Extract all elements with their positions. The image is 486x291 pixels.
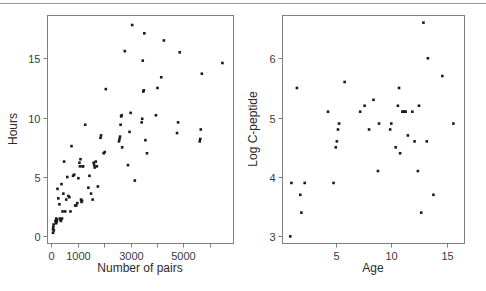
y-tick-label: 3 bbox=[269, 231, 275, 243]
left-axis-ticks bbox=[44, 59, 211, 248]
data-point bbox=[177, 121, 180, 124]
data-point bbox=[97, 185, 100, 188]
data-point bbox=[79, 158, 82, 161]
data-point bbox=[146, 152, 149, 155]
data-point bbox=[90, 192, 93, 195]
y-tick-label: 4 bbox=[269, 172, 275, 184]
data-point bbox=[420, 211, 423, 214]
data-point bbox=[143, 32, 146, 35]
data-point bbox=[88, 175, 91, 178]
data-point bbox=[128, 131, 131, 134]
data-point bbox=[422, 21, 425, 24]
data-point bbox=[389, 128, 392, 131]
data-point bbox=[359, 110, 362, 113]
right-data-points bbox=[289, 21, 455, 237]
data-point bbox=[156, 87, 159, 90]
data-point bbox=[57, 197, 60, 200]
right-y-axis-title: Log C-peptide bbox=[246, 91, 260, 167]
data-point bbox=[58, 203, 61, 206]
data-point bbox=[425, 140, 428, 143]
data-point bbox=[82, 165, 85, 168]
data-point bbox=[407, 134, 410, 137]
data-point bbox=[55, 221, 58, 224]
data-point bbox=[163, 39, 166, 42]
data-point bbox=[52, 232, 55, 235]
data-point bbox=[427, 57, 430, 60]
data-point bbox=[413, 140, 416, 143]
data-point bbox=[77, 177, 80, 180]
data-point bbox=[338, 122, 341, 125]
data-point bbox=[69, 210, 72, 213]
data-point bbox=[60, 220, 63, 223]
data-point bbox=[127, 164, 130, 167]
data-point bbox=[160, 76, 163, 79]
data-point bbox=[398, 87, 401, 90]
data-point bbox=[81, 199, 84, 202]
data-point bbox=[56, 188, 59, 191]
x-tick-label: 10 bbox=[385, 250, 397, 262]
left-data-points bbox=[52, 24, 224, 234]
left-x-axis-title: Number of pairs bbox=[97, 261, 182, 275]
y-tick-label: 5 bbox=[269, 113, 275, 125]
data-point bbox=[73, 173, 76, 176]
y-tick-label: 15 bbox=[28, 53, 40, 65]
data-point bbox=[52, 226, 55, 229]
data-point bbox=[399, 152, 402, 155]
x-tick-label: 3000 bbox=[119, 250, 143, 262]
right-axis-ticks bbox=[279, 59, 448, 248]
data-point bbox=[394, 146, 397, 149]
data-point bbox=[93, 164, 96, 167]
data-point bbox=[198, 140, 201, 143]
data-point bbox=[121, 146, 124, 149]
data-point bbox=[144, 139, 147, 142]
left-plot-svg: 0100030005000051015 Number of pairs Hour… bbox=[0, 0, 243, 291]
left-plot-frame bbox=[48, 16, 234, 244]
data-point bbox=[176, 132, 179, 135]
data-point bbox=[61, 210, 64, 213]
data-point bbox=[53, 229, 56, 232]
x-tick-label: 1000 bbox=[66, 250, 90, 262]
data-point bbox=[372, 99, 375, 102]
right-x-axis-title: Age bbox=[362, 261, 384, 275]
data-point bbox=[66, 176, 69, 179]
scatter-panel-hours-vs-pairs: 0100030005000051015 Number of pairs Hour… bbox=[0, 0, 243, 291]
data-point bbox=[155, 114, 158, 117]
data-point bbox=[201, 72, 204, 75]
data-point bbox=[68, 196, 71, 199]
data-point bbox=[334, 146, 337, 149]
data-point bbox=[332, 182, 335, 185]
data-point bbox=[140, 121, 143, 124]
data-point bbox=[103, 151, 106, 154]
data-point bbox=[199, 138, 202, 141]
data-point bbox=[78, 161, 81, 164]
data-point bbox=[75, 204, 78, 207]
data-point bbox=[119, 135, 122, 138]
data-point bbox=[404, 110, 407, 113]
data-point bbox=[100, 134, 103, 137]
data-point bbox=[143, 89, 146, 92]
x-tick-label: 5 bbox=[333, 250, 339, 262]
data-point bbox=[397, 104, 400, 107]
data-point bbox=[178, 51, 181, 54]
data-point bbox=[76, 202, 79, 205]
data-point bbox=[65, 198, 68, 201]
data-point bbox=[134, 179, 137, 182]
data-point bbox=[327, 110, 330, 113]
y-tick-label: 10 bbox=[28, 113, 40, 125]
y-tick-label: 0 bbox=[34, 231, 40, 243]
data-point bbox=[141, 59, 144, 62]
data-point bbox=[118, 140, 121, 143]
data-point bbox=[119, 123, 122, 126]
data-point bbox=[418, 104, 421, 107]
data-point bbox=[417, 170, 420, 173]
data-point bbox=[411, 110, 414, 113]
data-point bbox=[336, 140, 339, 143]
data-point bbox=[221, 62, 224, 65]
data-point bbox=[70, 145, 73, 148]
x-tick-label: 15 bbox=[441, 250, 453, 262]
x-tick-label: 0 bbox=[48, 250, 54, 262]
data-point bbox=[61, 217, 64, 220]
data-point bbox=[378, 122, 381, 125]
data-point bbox=[363, 104, 366, 107]
y-tick-label: 5 bbox=[34, 172, 40, 184]
